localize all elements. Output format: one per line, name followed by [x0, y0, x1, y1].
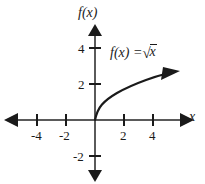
x-axis-label: x	[189, 110, 195, 124]
radicand: x	[150, 44, 157, 59]
equation-lhs: f(x) =	[110, 45, 142, 60]
y-axis-arrow-up	[88, 24, 102, 36]
x-tick-label--4: -4	[31, 129, 42, 142]
y-axis-label: f(x)	[78, 6, 97, 20]
coordinate-plane-svg	[0, 0, 205, 184]
graph-figure: f(x) x f(x) =√x -4 -2 2 4 4 2 -2	[0, 0, 205, 184]
curve-arrowhead	[161, 67, 180, 80]
x-tick-label-2: 2	[120, 129, 127, 142]
equation-annotation: f(x) =√x	[110, 45, 157, 60]
y-tick-label-4: 4	[78, 42, 85, 55]
sqrt-curve	[95, 74, 167, 121]
x-tick-label--2: -2	[59, 129, 70, 142]
x-tick-label-4: 4	[149, 129, 156, 142]
x-axis-arrow-left	[4, 113, 18, 127]
y-tick-label-2: 2	[78, 78, 85, 91]
y-tick-label--2: -2	[73, 150, 84, 163]
radical-expression: √x	[142, 45, 156, 60]
y-axis-arrow-down	[88, 170, 102, 182]
